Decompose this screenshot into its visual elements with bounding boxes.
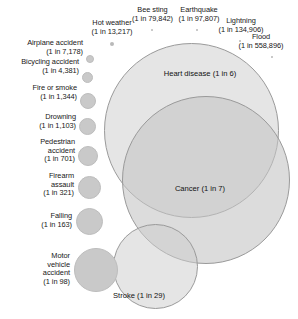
label-heart-disease: Heart disease (1 in 6) [150, 69, 250, 78]
bubble-drowning [79, 118, 96, 135]
bubble-bicycling-accident [82, 72, 93, 83]
label-pedestrian-accident: Pedestrian accident (1 in 701) [0, 138, 75, 164]
label-flood: Flood (1 in 558,896) [224, 33, 298, 50]
label-firearm-assault-line3: (1 in 321) [0, 189, 74, 198]
label-firearm-assault: Firearm assault (1 in 321) [0, 172, 74, 198]
label-stroke: Stroke (1 in 29) [104, 291, 174, 300]
bubble-firearm-assault [78, 176, 101, 199]
bubble-earthquake [196, 29, 198, 31]
bubble-chart-canvas: Bee sting (1 in 79,842) Earthquake (1 in… [0, 0, 298, 319]
label-cancer-line2: (1 in 7) [201, 184, 225, 193]
label-falling-line2: (1 in 163) [0, 221, 72, 230]
label-drowning: Drowning (1 in 1,103) [0, 113, 76, 130]
label-flood-line2: (1 in 558,896) [224, 42, 298, 51]
bubble-falling [76, 208, 103, 235]
label-motor-vehicle-accident: Motor vehicle accident (1 in 98) [0, 252, 70, 286]
label-bicycling-accident-line2: (1 in 4,381) [0, 67, 79, 76]
label-fire-or-smoke-line2: (1 in 1,344) [0, 93, 77, 102]
label-stroke-line2: (1 in 29) [137, 291, 165, 300]
label-bicycling-accident: Bicycling accident (1 in 4,381) [0, 58, 79, 75]
label-airplane-accident: Airplane accident (1 in 7,178) [0, 39, 83, 56]
bubble-motor-vehicle-accident [74, 248, 118, 292]
bubble-hot-weather [110, 42, 114, 46]
label-heart-disease-line1: Heart disease [164, 69, 211, 78]
label-stroke-line1: Stroke [113, 291, 135, 300]
label-heart-disease-line2: (1 in 6) [213, 69, 237, 78]
label-drowning-line2: (1 in 1,103) [0, 122, 76, 131]
label-fire-or-smoke: Fire or smoke (1 in 1,344) [0, 84, 77, 101]
bubble-airplane-accident [86, 55, 94, 63]
label-motor-vehicle-accident-line4: (1 in 98) [43, 277, 70, 286]
label-pedestrian-accident-line3: (1 in 701) [0, 155, 75, 164]
label-cancer: Cancer (1 in 7) [157, 184, 243, 193]
bubble-pedestrian-accident [78, 146, 98, 166]
label-airplane-accident-line2: (1 in 7,178) [0, 48, 83, 57]
label-hot-weather-line2: (1 in 13,217) [65, 28, 159, 37]
label-hot-weather: Hot weather (1 in 13,217) [65, 19, 159, 36]
label-cancer-line1: Cancer [175, 184, 199, 193]
bubble-flood [271, 56, 273, 58]
bubble-fire-or-smoke [80, 93, 96, 109]
label-falling: Falling (1 in 163) [0, 212, 72, 229]
